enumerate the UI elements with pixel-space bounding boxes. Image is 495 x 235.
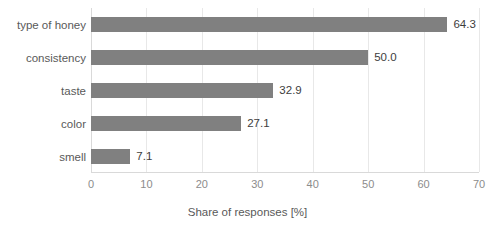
bar-row: 7.1 bbox=[91, 140, 479, 173]
bar-row: 27.1 bbox=[91, 107, 479, 140]
x-tick-label: 40 bbox=[307, 177, 319, 191]
bar-value-label: 64.3 bbox=[453, 16, 475, 32]
bar bbox=[91, 83, 273, 98]
bar-row: 32.9 bbox=[91, 74, 479, 107]
category-label: type of honey bbox=[0, 17, 86, 33]
bar-value-label: 7.1 bbox=[136, 148, 152, 164]
bar-row: 64.3 bbox=[91, 8, 479, 41]
x-axis-line bbox=[91, 172, 479, 173]
bar-chart: 64.350.032.927.17.1 type of honeyconsist… bbox=[0, 0, 495, 235]
bar-value-label: 27.1 bbox=[247, 115, 269, 131]
category-label: color bbox=[0, 116, 86, 132]
category-label-group: type of honeyconsistencytastecolorsmell bbox=[0, 8, 86, 172]
x-tick-label: 60 bbox=[417, 177, 429, 191]
bar-row: 50.0 bbox=[91, 41, 479, 74]
bar bbox=[91, 149, 130, 164]
category-label: consistency bbox=[0, 50, 86, 66]
bar-value-label: 32.9 bbox=[279, 82, 301, 98]
category-label: smell bbox=[0, 149, 86, 165]
x-tick-label: 20 bbox=[196, 177, 208, 191]
bar bbox=[91, 17, 447, 32]
x-tick-label: 70 bbox=[473, 177, 485, 191]
gridline-70 bbox=[479, 8, 480, 172]
x-tick-label: 30 bbox=[251, 177, 263, 191]
bar bbox=[91, 116, 241, 131]
plot-area: 64.350.032.927.17.1 bbox=[91, 8, 479, 172]
x-tick-label: 0 bbox=[88, 177, 94, 191]
bar bbox=[91, 50, 368, 65]
x-tick-label: 10 bbox=[140, 177, 152, 191]
x-axis-title: Share of responses [%] bbox=[0, 206, 495, 218]
x-tick-label: 50 bbox=[362, 177, 374, 191]
category-label: taste bbox=[0, 83, 86, 99]
bar-value-label: 50.0 bbox=[374, 49, 396, 65]
